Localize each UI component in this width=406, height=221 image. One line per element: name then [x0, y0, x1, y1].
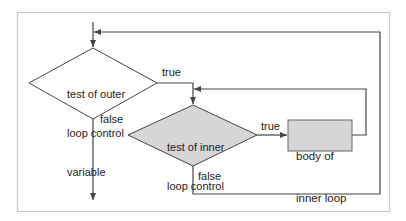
nested-loop-flowchart: test of outer loop control variable test…: [0, 0, 406, 221]
outer-test-line-1: test of outer: [67, 88, 125, 101]
inner-body-line-2: inner loop: [296, 191, 347, 205]
outer-test-label: test of outer loop control variable: [67, 62, 125, 205]
outer-test-line-2: loop control: [67, 127, 125, 140]
outer-true-label: true: [162, 66, 181, 79]
inner-test-label: test of inner loop control variable: [167, 115, 224, 221]
inner-false-label: false: [198, 170, 221, 183]
inner-true-label: true: [261, 120, 280, 133]
outer-test-line-3: variable: [67, 166, 125, 179]
outer-false-label: false: [100, 113, 123, 126]
inner-body-line-1: body of: [296, 149, 347, 163]
inner-test-line-1: test of inner: [167, 141, 224, 154]
inner-body-label: body of inner loop: [296, 121, 347, 221]
inner-test-line-3: variable: [167, 219, 224, 221]
